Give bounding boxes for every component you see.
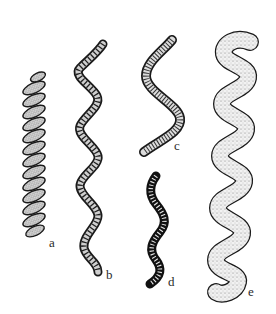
label-c: c (174, 139, 180, 152)
panel-e-spiral (216, 40, 250, 294)
label-b: b (106, 268, 113, 281)
spiral-organisms-figure: a b c d e (0, 0, 276, 314)
label-a: a (49, 236, 55, 249)
label-e: e (248, 285, 254, 298)
panel-d-filament (150, 176, 164, 284)
figure-drawing (0, 0, 276, 314)
panel-a-helix (21, 70, 47, 239)
label-d: d (168, 275, 175, 288)
panel-b-filament (78, 44, 103, 272)
panel-c-filament (144, 40, 180, 152)
